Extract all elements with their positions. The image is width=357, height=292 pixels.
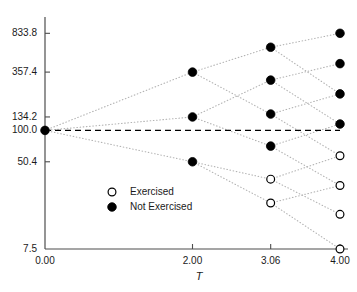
lattice-edges: [45, 33, 340, 249]
y-tick-label: 100.0: [0, 125, 37, 135]
legend-marker-filled-circle: [108, 203, 117, 212]
y-tick-label: 7.5: [0, 244, 37, 254]
x-tick-label: 0.00: [35, 256, 54, 266]
lattice-node-exercised: [267, 175, 275, 183]
lattice-node-not-exercised: [336, 59, 345, 68]
binomial-lattice-chart: 833.8357.4134.2100.050.47.5 0.002.003.06…: [0, 0, 357, 292]
y-tick-label: 357.4: [0, 67, 37, 77]
x-tick-label: 3.06: [261, 256, 280, 266]
axis-lines: [45, 17, 348, 249]
axis-ticks: [45, 33, 340, 249]
lattice-node-not-exercised: [266, 76, 275, 85]
lattice-node-not-exercised: [41, 126, 50, 135]
lattice-node-not-exercised: [266, 142, 275, 151]
lattice-node-not-exercised: [336, 90, 345, 99]
lattice-node-exercised: [336, 210, 344, 218]
lattice-node-not-exercised: [336, 29, 345, 38]
lattice-node-not-exercised: [266, 110, 275, 119]
legend-markers: [108, 188, 117, 211]
lattice-node-exercised: [336, 182, 344, 190]
legend-label: Not Exercised: [130, 202, 192, 212]
y-tick-label: 134.2: [0, 112, 37, 122]
x-tick-label: 4.00: [330, 256, 349, 266]
x-tick-label: 2.00: [183, 256, 202, 266]
lattice-node-exercised: [336, 245, 344, 253]
lattice-node-exercised: [267, 199, 275, 207]
lattice-node-not-exercised: [188, 113, 197, 122]
lattice-node-not-exercised: [266, 43, 275, 52]
plot-area: [0, 0, 357, 292]
y-tick-label: 50.4: [0, 157, 37, 167]
lattice-node-not-exercised: [336, 120, 345, 129]
lattice-node-not-exercised: [188, 68, 197, 77]
lattice-node-not-exercised: [188, 157, 197, 166]
legend-label: Exercised: [130, 187, 174, 197]
legend-marker-open-circle: [108, 188, 116, 196]
x-axis-title: T: [196, 271, 203, 282]
y-tick-label: 833.8: [0, 28, 37, 38]
lattice-nodes: [41, 29, 345, 253]
lattice-node-exercised: [336, 152, 344, 160]
